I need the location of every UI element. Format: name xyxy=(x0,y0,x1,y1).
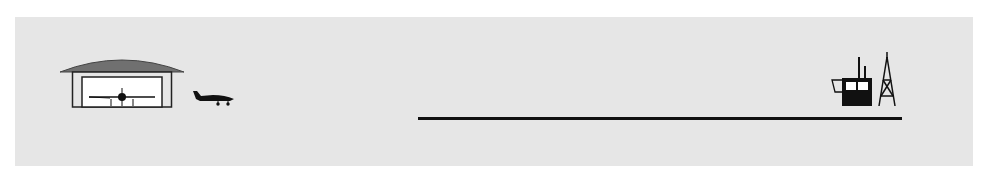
runway-line xyxy=(418,117,902,120)
hangar-icon xyxy=(60,60,184,107)
taxiing-aircraft-icon xyxy=(193,91,234,106)
control-tower-icon xyxy=(832,57,872,106)
airfield-diagram xyxy=(0,0,991,181)
radio-mast-icon xyxy=(879,52,895,106)
